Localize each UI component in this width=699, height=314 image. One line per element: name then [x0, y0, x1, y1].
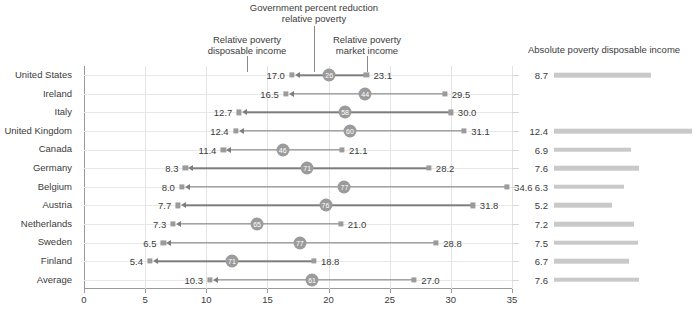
market-income-value: 29.5 — [452, 88, 471, 99]
category-label-average: Average — [0, 271, 78, 290]
x-tick-0 — [84, 289, 85, 293]
absolute-poverty-value: 12.4 — [520, 126, 548, 137]
absolute-poverty-bar[interactable] — [554, 129, 692, 134]
percent-reduction-badge[interactable]: 44 — [359, 87, 372, 100]
arrow-head-icon — [226, 147, 231, 153]
category-label-united-states: United States — [0, 66, 78, 85]
disposable-income-value: 8.0 — [162, 181, 175, 192]
absolute-poverty-row-tick — [512, 243, 519, 244]
disposable-income-marker[interactable] — [289, 73, 294, 78]
category-label-austria: Austria — [0, 196, 78, 215]
x-axis-ticks: 05101520253035 — [84, 289, 512, 311]
market-income-marker[interactable] — [448, 110, 453, 115]
percent-reduction-badge[interactable]: 77 — [293, 236, 306, 249]
disposable-income-marker[interactable] — [171, 222, 176, 227]
percent-reduction-badge[interactable]: 77 — [338, 180, 351, 193]
disposable-income-marker[interactable] — [183, 166, 188, 171]
percent-reduction-badge[interactable]: 71 — [225, 255, 238, 268]
x-tick-label: 20 — [323, 294, 334, 305]
poverty-chart-figure: Government percent reduction relative po… — [0, 0, 699, 314]
absolute-poverty-bar[interactable] — [554, 222, 634, 227]
arrow-head-icon — [185, 184, 190, 190]
absolute-poverty-row: 8.7 — [512, 66, 699, 85]
disposable-income-value: 7.7 — [158, 200, 171, 211]
percent-reduction-badge[interactable]: 26 — [323, 69, 336, 82]
annotation-government-reduction: Government percent reduction relative po… — [204, 2, 424, 24]
chart-row: 7.731.876 — [84, 196, 512, 215]
market-income-value: 28.8 — [443, 237, 462, 248]
market-income-marker[interactable] — [311, 259, 316, 264]
percent-reduction-badge[interactable]: 65 — [251, 218, 264, 231]
absolute-poverty-row-tick — [512, 224, 519, 225]
absolute-poverty-panel: Absolute poverty disposable income 8.712… — [512, 40, 699, 300]
market-income-value: 27.0 — [421, 274, 440, 285]
annotation-government-reduction-line1: Government percent reduction — [204, 2, 424, 13]
disposable-income-marker[interactable] — [179, 184, 184, 189]
annotation-market-line1: Relative poverty — [312, 34, 422, 45]
absolute-poverty-bar[interactable] — [554, 166, 639, 171]
x-tick-label: 30 — [446, 294, 457, 305]
chart-row: 5.418.871 — [84, 252, 512, 271]
percent-reduction-badge[interactable]: 71 — [301, 162, 314, 175]
percent-reduction-badge[interactable]: 60 — [343, 125, 356, 138]
absolute-poverty-row: 5.2 — [512, 196, 699, 215]
category-label-sweden: Sweden — [0, 233, 78, 252]
absolute-poverty-bar[interactable] — [554, 240, 638, 245]
disposable-income-value: 5.4 — [130, 256, 143, 267]
market-income-value: 31.8 — [480, 200, 499, 211]
market-income-marker[interactable] — [470, 203, 475, 208]
market-income-marker[interactable] — [412, 277, 417, 282]
disposable-income-value: 16.5 — [260, 88, 279, 99]
arrow-head-icon — [213, 277, 218, 283]
arrow-head-icon — [188, 165, 193, 171]
x-tick-20 — [329, 289, 330, 293]
market-income-marker[interactable] — [442, 91, 447, 96]
market-income-marker[interactable] — [339, 147, 344, 152]
category-label-germany: Germany — [0, 159, 78, 178]
disposable-income-marker[interactable] — [233, 129, 238, 134]
x-tick-30 — [451, 289, 452, 293]
disposable-income-marker[interactable] — [147, 259, 152, 264]
percent-reduction-badge[interactable]: 76 — [319, 199, 332, 212]
disposable-income-marker[interactable] — [176, 203, 181, 208]
market-income-marker[interactable] — [505, 184, 510, 189]
absolute-poverty-row: 7.5 — [512, 233, 699, 252]
absolute-poverty-bar[interactable] — [554, 259, 629, 264]
market-income-value: 21.1 — [349, 144, 368, 155]
market-income-marker[interactable] — [462, 129, 467, 134]
market-income-marker[interactable] — [338, 222, 343, 227]
percent-reduction-badge[interactable]: 61 — [306, 273, 319, 286]
absolute-poverty-value: 7.2 — [520, 219, 548, 230]
absolute-poverty-bar[interactable] — [554, 147, 631, 152]
absolute-poverty-row: 7.6 — [512, 271, 699, 290]
absolute-poverty-bar[interactable] — [554, 203, 612, 208]
disposable-income-marker[interactable] — [221, 147, 226, 152]
category-label-canada: Canada — [0, 140, 78, 159]
disposable-income-marker[interactable] — [237, 110, 242, 115]
absolute-poverty-rows: 8.712.46.97.66.35.27.27.56.77.6 — [512, 66, 699, 289]
market-income-marker[interactable] — [426, 166, 431, 171]
disposable-income-value: 6.5 — [143, 237, 156, 248]
disposable-income-marker[interactable] — [283, 91, 288, 96]
absolute-poverty-bar[interactable] — [554, 278, 639, 283]
absolute-poverty-row: 12.4 — [512, 122, 699, 141]
disposable-income-marker[interactable] — [207, 277, 212, 282]
absolute-poverty-value: 5.2 — [520, 200, 548, 211]
market-income-marker[interactable] — [434, 240, 439, 245]
absolute-poverty-bar[interactable] — [554, 185, 624, 190]
arrow-head-icon — [166, 240, 171, 246]
x-tick-10 — [206, 289, 207, 293]
annotation-disposable-line2: disposable income — [192, 45, 302, 56]
disposable-income-value: 10.3 — [184, 274, 203, 285]
market-income-marker[interactable] — [364, 73, 369, 78]
absolute-poverty-value: 7.6 — [520, 163, 548, 174]
percent-reduction-badge[interactable]: 46 — [276, 143, 289, 156]
annotation-relative-poverty-market: Relative poverty market income — [312, 34, 422, 56]
disposable-income-value: 7.3 — [153, 219, 166, 230]
disposable-income-marker[interactable] — [161, 240, 166, 245]
absolute-poverty-value: 8.7 — [520, 70, 548, 81]
absolute-poverty-row-tick — [512, 261, 519, 262]
absolute-poverty-bar[interactable] — [554, 73, 651, 78]
percent-reduction-badge[interactable]: 58 — [339, 106, 352, 119]
absolute-poverty-row: 6.7 — [512, 252, 699, 271]
